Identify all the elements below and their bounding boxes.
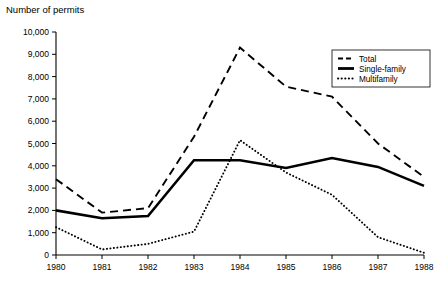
y-tick-label: 9,000	[28, 49, 50, 59]
legend-label-total: Total	[359, 55, 376, 64]
y-tick-label: 1,000	[28, 228, 50, 238]
x-axis-tick-labels: 198019811982198319841985198619871988	[47, 262, 434, 272]
series-line-single-family	[56, 158, 424, 218]
x-tick-label: 1985	[277, 262, 296, 272]
permits-line-chart: Number of permits 01,0002,0003,0004,0005…	[0, 0, 438, 284]
x-tick-label: 1982	[139, 262, 158, 272]
y-axis-tick-marks	[52, 32, 56, 255]
chart-canvas: Number of permits 01,0002,0003,0004,0005…	[0, 0, 438, 284]
y-tick-label: 10,000	[23, 27, 49, 37]
y-tick-label: 8,000	[28, 72, 50, 82]
y-axis-tick-labels: 01,0002,0003,0004,0005,0006,0007,0008,00…	[23, 27, 49, 260]
x-tick-label: 1980	[47, 262, 66, 272]
x-tick-label: 1984	[231, 262, 250, 272]
chart-legend: Total Single-family Multifamily	[332, 50, 430, 87]
y-tick-label: 7,000	[28, 94, 50, 104]
y-tick-label: 0	[44, 250, 49, 260]
y-tick-label: 4,000	[28, 161, 50, 171]
y-tick-label: 6,000	[28, 116, 50, 126]
y-tick-label: 2,000	[28, 205, 50, 215]
y-tick-label: 5,000	[28, 139, 50, 149]
legend-label-multifamily: Multifamily	[359, 75, 399, 84]
x-tick-label: 1983	[185, 262, 204, 272]
x-tick-label: 1988	[415, 262, 434, 272]
y-tick-label: 3,000	[28, 183, 50, 193]
legend-label-single-family: Single-family	[359, 65, 407, 74]
x-tick-label: 1986	[323, 262, 342, 272]
x-tick-label: 1987	[369, 262, 388, 272]
x-tick-label: 1981	[93, 262, 112, 272]
series-line-multifamily	[56, 140, 424, 253]
chart-title: Number of permits	[6, 4, 84, 15]
x-axis-tick-marks	[56, 255, 424, 259]
